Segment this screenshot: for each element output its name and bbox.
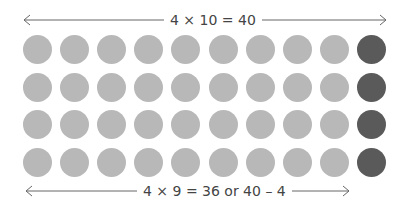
light-dot <box>134 110 163 139</box>
light-dot <box>246 148 275 177</box>
light-dot <box>23 148 52 177</box>
light-dot <box>60 110 89 139</box>
light-dot <box>97 148 126 177</box>
light-dot <box>209 35 238 64</box>
light-dot <box>171 35 200 64</box>
light-dot <box>283 110 312 139</box>
light-dot <box>23 110 52 139</box>
light-dot <box>171 110 200 139</box>
light-dot <box>60 73 89 102</box>
light-dot <box>320 110 349 139</box>
light-dot <box>209 148 238 177</box>
light-dot <box>320 73 349 102</box>
light-dot <box>246 110 275 139</box>
bottom-arrow-label: 4 × 9 = 36 or 40 – 4 <box>137 184 292 198</box>
light-dot <box>246 73 275 102</box>
light-dot <box>97 35 126 64</box>
light-dot <box>320 148 349 177</box>
dark-dot <box>357 35 386 64</box>
light-dot <box>320 35 349 64</box>
light-dot <box>171 73 200 102</box>
light-dot <box>97 110 126 139</box>
light-dot <box>171 148 200 177</box>
dark-dot <box>357 148 386 177</box>
light-dot <box>60 148 89 177</box>
light-dot <box>283 148 312 177</box>
top-arrow-label: 4 × 10 = 40 <box>164 13 262 27</box>
light-dot <box>134 35 163 64</box>
light-dot <box>23 73 52 102</box>
light-dot <box>209 73 238 102</box>
light-dot <box>246 35 275 64</box>
light-dot <box>134 148 163 177</box>
light-dot <box>60 35 89 64</box>
light-dot <box>23 35 52 64</box>
light-dot <box>283 35 312 64</box>
dark-dot <box>357 110 386 139</box>
light-dot <box>97 73 126 102</box>
light-dot <box>134 73 163 102</box>
light-dot <box>283 73 312 102</box>
dark-dot <box>357 73 386 102</box>
light-dot <box>209 110 238 139</box>
